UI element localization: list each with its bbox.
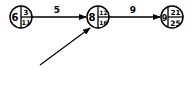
edge-n2-n3: 9 bbox=[109, 5, 160, 17]
node-1: 6 3 11 bbox=[10, 6, 32, 28]
node-early-time: 21 bbox=[171, 9, 181, 17]
node-3: 9 21 25 bbox=[161, 6, 183, 28]
node-2: 8 12 16 bbox=[87, 6, 109, 28]
node-event-number: 9 bbox=[162, 14, 168, 23]
node-late-time: 16 bbox=[99, 19, 107, 26]
node-early-time: 3 bbox=[24, 9, 29, 17]
node-early-time: 12 bbox=[99, 9, 107, 16]
node-late-time: 11 bbox=[21, 19, 31, 27]
node-event-number: 6 bbox=[12, 12, 19, 23]
edge-line bbox=[40, 28, 90, 65]
edge-duration-label: 5 bbox=[54, 5, 60, 15]
node-late-time: 25 bbox=[170, 19, 180, 28]
network-diagram: 5 9 6 3 11 8 12 16 9 21 25 bbox=[0, 0, 196, 87]
node-event-number: 8 bbox=[89, 12, 96, 23]
edge-incoming-n2 bbox=[40, 28, 90, 65]
edge-n1-n2: 5 bbox=[32, 5, 86, 17]
edge-duration-label: 9 bbox=[130, 5, 136, 15]
